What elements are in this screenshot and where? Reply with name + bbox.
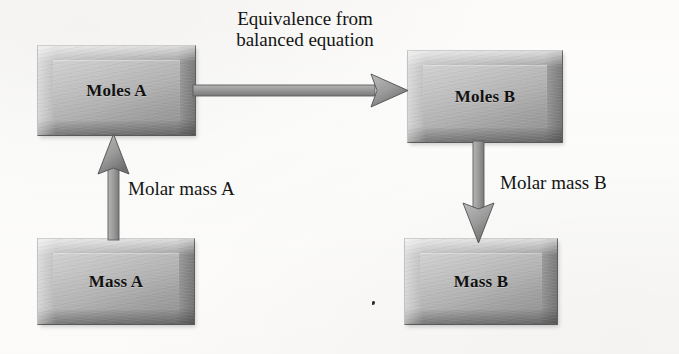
node-label-mass-b: Mass B [405, 239, 557, 324]
node-mass-b: Mass B [404, 238, 558, 325]
arrowhead-down-icon [463, 203, 494, 243]
arrow-moles-a-to-moles-b [193, 74, 408, 107]
equivalence-line-2: balanced equation [236, 29, 374, 50]
label-equivalence-from-balanced-equation: Equivalence from balanced equation [199, 8, 411, 51]
equivalence-line-1: Equivalence from [237, 8, 373, 29]
scan-artifact-speck [372, 301, 375, 305]
node-mass-a: Mass A [37, 238, 195, 325]
label-molar-mass-a: Molar mass A [128, 178, 235, 199]
stoichiometry-flowchart: Moles A Moles B Mass A Mass B [0, 0, 679, 354]
node-label-moles-b: Moles B [408, 51, 562, 142]
arrowhead-up-icon [98, 134, 129, 174]
arrow-mass-a-to-moles-a [98, 134, 129, 240]
arrow-moles-b-to-mass-b [463, 141, 494, 243]
node-label-mass-a: Mass A [38, 239, 194, 324]
arrowhead-right-icon [371, 74, 408, 107]
node-moles-b: Moles B [407, 50, 563, 143]
node-label-moles-a: Moles A [38, 46, 195, 135]
label-molar-mass-b: Molar mass B [500, 172, 607, 193]
node-moles-a: Moles A [37, 45, 196, 136]
